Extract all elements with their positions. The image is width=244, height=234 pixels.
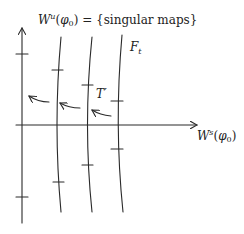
dynamics-diagram: Wu(φ0) = {singular maps} Ws(φ0) Ft T′ (0, 0, 244, 234)
unstable-manifold-label: Wu(φ0) = {singular maps} (38, 12, 197, 28)
foliation-leaf-3 (111, 35, 123, 212)
stable-manifold-label: Ws(φ0) (197, 128, 236, 144)
curved-arrow-icon (60, 103, 80, 108)
foliation-label: Ft (129, 40, 142, 56)
curved-arrow-icon (92, 110, 111, 116)
curved-arrow-icon (29, 96, 49, 102)
map-label: T′ (96, 87, 107, 101)
